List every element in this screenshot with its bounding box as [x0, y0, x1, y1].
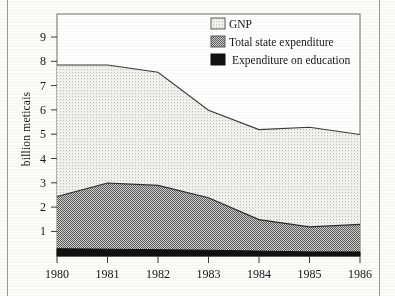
- x-axis-ticks: [57, 256, 360, 263]
- y-axis-ticks: [51, 37, 57, 231]
- legend-label-gnp: GNP: [229, 18, 252, 30]
- y-tick-8: 8: [40, 54, 46, 68]
- x-tick-1986: 1986: [348, 267, 372, 281]
- y-tick-4: 4: [40, 152, 46, 166]
- y-axis-tick-labels: 9 8 7 6 5 4 3 2 1: [40, 30, 46, 238]
- y-tick-6: 6: [40, 103, 46, 117]
- legend-swatch-gnp: [211, 18, 225, 29]
- figure-container: billion meticais: [0, 0, 395, 296]
- y-tick-7: 7: [40, 79, 46, 93]
- x-tick-1983: 1983: [197, 267, 221, 281]
- y-tick-5: 5: [40, 127, 46, 141]
- x-tick-1985: 1985: [298, 267, 322, 281]
- legend-label-state-expenditure: Total state expenditure: [229, 36, 334, 49]
- y-tick-1: 1: [40, 224, 46, 238]
- x-tick-1980: 1980: [45, 267, 69, 281]
- x-tick-1982: 1982: [146, 267, 170, 281]
- x-axis-tick-labels: 1980 1981 1982 1983 1984 1985 1986: [45, 267, 372, 281]
- legend-swatch-state-expenditure: [211, 36, 225, 47]
- x-tick-1981: 1981: [96, 267, 120, 281]
- x-tick-1984: 1984: [247, 267, 271, 281]
- y-tick-3: 3: [40, 176, 46, 190]
- chart-svg: 9 8 7 6 5 4 3 2 1 1980 1981 1982 1983 19…: [0, 0, 395, 296]
- y-tick-2: 2: [40, 200, 46, 214]
- y-tick-9: 9: [40, 30, 46, 44]
- legend-label-education: Expenditure on education: [232, 54, 350, 67]
- legend-swatch-education: [211, 54, 225, 65]
